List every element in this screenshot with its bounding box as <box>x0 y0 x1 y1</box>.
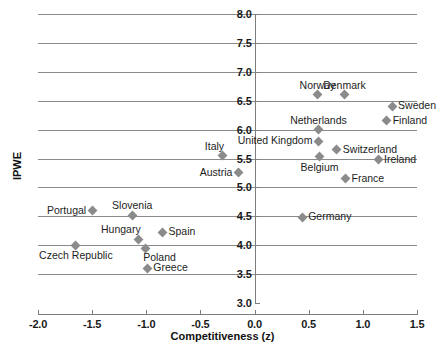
y-tick-6.0 <box>255 130 260 131</box>
y-tick-8.0 <box>255 14 260 15</box>
x-tick-label--2.0: -2.0 <box>18 318 58 330</box>
diamond-marker <box>233 168 243 178</box>
y-tick-label-3.5: 3.5 <box>222 268 252 280</box>
y-tick-label-5.0: 5.0 <box>222 181 252 193</box>
point-label: Finland <box>393 115 427 126</box>
x-tick-label-0.5: 0.5 <box>289 318 329 330</box>
point-label: France <box>352 173 385 184</box>
x-tick-1.0 <box>363 310 364 315</box>
x-axis-title: Competitiveness (z) <box>0 330 445 342</box>
y-tick-6.5 <box>255 101 260 102</box>
y-tick-label-8.0: 8.0 <box>222 8 252 20</box>
y-tick-label-7.5: 7.5 <box>222 37 252 49</box>
point-label: United Kingdom <box>238 135 313 146</box>
y-axis-title: IPWE <box>11 136 23 196</box>
point-label: Austria <box>200 167 233 178</box>
point-label: Portugal <box>47 205 86 216</box>
diamond-marker <box>332 145 342 155</box>
diamond-marker <box>373 155 383 165</box>
x-tick--0.5 <box>200 310 201 315</box>
x-axis-line <box>38 314 417 315</box>
point-label: Ireland <box>384 154 416 165</box>
y-tick-label-7.0: 7.0 <box>222 66 252 78</box>
y-tick-5.5 <box>255 159 260 160</box>
diamond-marker <box>341 174 351 184</box>
x-tick--2.0 <box>38 310 39 315</box>
diamond-marker <box>297 213 307 223</box>
diamond-marker <box>127 210 137 220</box>
y-tick-7.0 <box>255 72 260 73</box>
point-label: Czech Republic <box>39 250 113 261</box>
diamond-marker <box>142 263 152 273</box>
x-tick-label--1.5: -1.5 <box>72 318 112 330</box>
point-label: Germany <box>308 211 351 222</box>
diamond-marker <box>382 116 392 126</box>
x-tick-0.5 <box>309 310 310 315</box>
point-label: Slovenia <box>112 200 152 211</box>
y-tick-7.5 <box>255 43 260 44</box>
y-tick-label-4.0: 4.0 <box>222 239 252 251</box>
diamond-marker <box>314 136 324 146</box>
y-tick-3.0 <box>255 303 260 304</box>
point-label: Netherlands <box>290 115 347 126</box>
x-tick-1.5 <box>417 310 418 315</box>
point-label: Spain <box>169 226 196 237</box>
point-label: Denmark <box>323 80 366 91</box>
diamond-marker <box>134 234 144 244</box>
diamond-marker <box>314 125 324 135</box>
x-tick-label--0.5: -0.5 <box>180 318 220 330</box>
x-tick-label-1.0: 1.0 <box>343 318 383 330</box>
x-tick-0.0 <box>255 310 256 315</box>
diamond-marker <box>312 90 322 100</box>
diamond-marker <box>339 90 349 100</box>
x-tick-label--1.0: -1.0 <box>126 318 166 330</box>
x-tick--1.0 <box>146 310 147 315</box>
scatter-chart: -2.0-1.5-1.0-0.50.00.51.01.53.03.54.04.5… <box>0 0 445 351</box>
x-tick-label-0.0: 0.0 <box>235 318 275 330</box>
plot-area: -2.0-1.5-1.0-0.50.00.51.01.53.03.54.04.5… <box>0 0 445 351</box>
diamond-marker <box>87 206 97 216</box>
y-tick-4.5 <box>255 216 260 217</box>
x-tick-label-1.5: 1.5 <box>397 318 437 330</box>
point-label: Greece <box>153 262 187 273</box>
y-tick-5.0 <box>255 187 260 188</box>
y-tick-label-6.5: 6.5 <box>222 95 252 107</box>
point-label: Hungary <box>101 224 141 235</box>
y-tick-3.5 <box>255 274 260 275</box>
y-tick-label-3.0: 3.0 <box>222 297 252 309</box>
point-label: Belgium <box>301 162 339 173</box>
point-label: Italy <box>205 141 224 152</box>
y-tick-4.0 <box>255 245 260 246</box>
point-label: Sweden <box>398 100 436 111</box>
y-tick-label-4.5: 4.5 <box>222 210 252 222</box>
x-tick--1.5 <box>92 310 93 315</box>
diamond-marker <box>158 228 168 238</box>
diamond-marker <box>387 102 397 112</box>
